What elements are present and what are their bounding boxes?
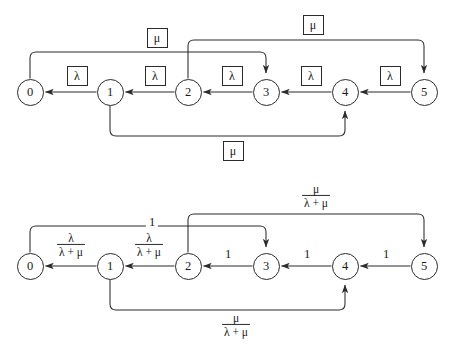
prob-state-node-2[interactable]: 2 bbox=[175, 253, 202, 280]
state-node-1[interactable]: 1 bbox=[97, 79, 124, 106]
prob-state-node-4-label: 4 bbox=[342, 260, 348, 273]
rate-label-0-to-3-text: μ bbox=[154, 32, 160, 44]
rate-label-3-to-2: λ bbox=[222, 66, 243, 86]
prob-label-2-to-1: λ λ + μ bbox=[133, 232, 165, 258]
state-node-1-label: 1 bbox=[107, 86, 113, 99]
prob-label-5-to-4: 1 bbox=[380, 248, 392, 261]
prob-state-node-1-label: 1 bbox=[107, 260, 113, 273]
rate-label-2-to-1-text: λ bbox=[152, 70, 158, 82]
prob-label-2-to-5: μ λ + μ bbox=[300, 183, 332, 209]
prob-state-node-3-label: 3 bbox=[263, 260, 269, 273]
state-node-2[interactable]: 2 bbox=[175, 79, 202, 106]
state-node-5-label: 5 bbox=[421, 86, 427, 99]
prob-state-node-0[interactable]: 0 bbox=[17, 253, 44, 280]
prob-label-3-to-2: 1 bbox=[222, 248, 234, 261]
prob-state-node-1[interactable]: 1 bbox=[97, 253, 124, 280]
prob-label-2-to-5-numerator: μ bbox=[309, 183, 323, 195]
rate-label-1-to-4-text: μ bbox=[230, 145, 236, 157]
prob-label-0-to-3: 1 bbox=[146, 216, 158, 229]
state-node-3[interactable]: 3 bbox=[253, 79, 280, 106]
prob-state-node-4[interactable]: 4 bbox=[332, 253, 359, 280]
prob-label-2-to-1-numerator: λ bbox=[142, 232, 156, 244]
state-node-4-label: 4 bbox=[342, 86, 348, 99]
prob-label-1-to-4: μ λ + μ bbox=[220, 312, 252, 338]
prob-label-2-to-5-denominator: λ + μ bbox=[302, 195, 330, 209]
state-node-4[interactable]: 4 bbox=[332, 79, 359, 106]
rate-label-0-to-3: μ bbox=[147, 28, 168, 48]
prob-label-2-to-1-denominator: λ + μ bbox=[135, 244, 163, 258]
figure-canvas: 0 1 2 3 4 5 λ λ λ λ λ μ μ μ 0 1 2 3 4 5 … bbox=[0, 0, 458, 351]
state-node-5[interactable]: 5 bbox=[411, 79, 438, 106]
state-node-0-label: 0 bbox=[27, 86, 33, 99]
prob-label-1-to-0: λ λ + μ bbox=[55, 232, 87, 258]
prob-label-1-to-0-numerator: λ bbox=[64, 232, 78, 244]
rate-label-2-to-1: λ bbox=[145, 66, 166, 86]
edge-1-to-4-mu bbox=[110, 106, 345, 137]
rate-label-2-to-5: μ bbox=[303, 15, 324, 35]
transition-arrows-layer bbox=[0, 0, 458, 351]
prob-label-1-to-4-numerator: μ bbox=[229, 312, 243, 324]
prob-state-node-2-label: 2 bbox=[185, 260, 191, 273]
prob-label-4-to-3: 1 bbox=[301, 248, 313, 261]
state-node-0[interactable]: 0 bbox=[17, 79, 44, 106]
state-node-2-label: 2 bbox=[185, 86, 191, 99]
prob-label-1-to-4-denominator: λ + μ bbox=[222, 324, 250, 338]
rate-label-1-to-0: λ bbox=[67, 66, 88, 86]
prob-state-node-5-label: 5 bbox=[421, 260, 427, 273]
rate-label-5-to-4-text: λ bbox=[387, 70, 393, 82]
rate-label-2-to-5-text: μ bbox=[310, 19, 316, 31]
rate-label-1-to-0-text: λ bbox=[74, 70, 80, 82]
prob-state-node-0-label: 0 bbox=[27, 260, 33, 273]
rate-label-1-to-4: μ bbox=[223, 141, 244, 161]
prob-state-node-5[interactable]: 5 bbox=[411, 253, 438, 280]
prob-label-1-to-0-denominator: λ + μ bbox=[57, 244, 85, 258]
rate-label-5-to-4: λ bbox=[380, 66, 401, 86]
state-node-3-label: 3 bbox=[263, 86, 269, 99]
prob-state-node-3[interactable]: 3 bbox=[253, 253, 280, 280]
rate-label-3-to-2-text: λ bbox=[229, 70, 235, 82]
edge-1-to-4-prob bbox=[110, 280, 345, 311]
rate-label-4-to-3: λ bbox=[301, 66, 322, 86]
rate-label-4-to-3-text: λ bbox=[308, 70, 314, 82]
